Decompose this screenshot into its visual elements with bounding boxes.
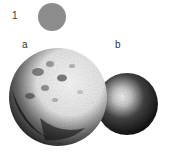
label-a: a — [22, 40, 28, 50]
figure-canvas — [0, 0, 170, 156]
label-1: 1 — [12, 11, 18, 21]
sphere-a — [9, 48, 107, 146]
small-gray-disk — [38, 3, 66, 31]
label-b: b — [115, 40, 121, 50]
